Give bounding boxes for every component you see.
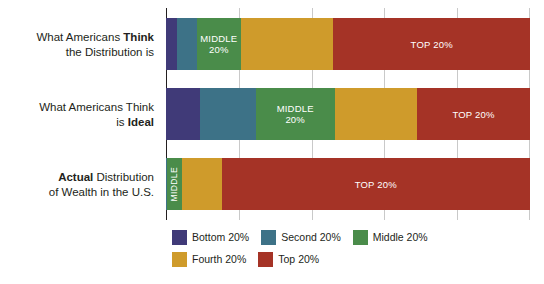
stacked-bars: MIDDLE 20%TOP 20% MIDDLE 20%TOP 20% MIDD… bbox=[166, 8, 530, 220]
legend-row-2: Fourth 20%Top 20% bbox=[172, 248, 532, 270]
legend-item[interactable]: Top 20% bbox=[258, 252, 319, 267]
legend: Bottom 20%Second 20%Middle 20% Fourth 20… bbox=[172, 226, 532, 270]
bar-segment-label: MIDDLE 20% bbox=[277, 103, 314, 125]
legend-item[interactable]: Bottom 20% bbox=[172, 230, 249, 245]
label-text: What Americans bbox=[36, 31, 123, 43]
legend-label: Fourth 20% bbox=[192, 253, 246, 265]
label-text: Distribution bbox=[93, 171, 154, 183]
legend-item[interactable]: Middle 20% bbox=[353, 230, 428, 245]
category-label-line2: the Distribution is bbox=[0, 45, 154, 60]
bar-segment bbox=[335, 88, 417, 140]
category-label-line1: Actual Distribution bbox=[0, 170, 154, 185]
label-emphasis: Think bbox=[123, 31, 154, 43]
bar-segment-label: MIDDLE 20% bbox=[200, 33, 237, 55]
label-text: What Americans Think bbox=[39, 101, 154, 113]
legend-swatch bbox=[258, 252, 273, 267]
category-label-group: What Americans Think the Distribution is… bbox=[0, 8, 160, 220]
legend-swatch bbox=[353, 230, 368, 245]
bar-row: MIDDLE 20%TOP 20% bbox=[166, 88, 530, 140]
category-label-line1: What Americans Think bbox=[0, 100, 154, 115]
label-text: of Wealth in the U.S. bbox=[49, 186, 154, 198]
bar-row: MIDDLETOP 20% bbox=[166, 158, 530, 210]
bar-segment: MIDDLE bbox=[167, 158, 182, 210]
plot-area: MIDDLE 20%TOP 20% MIDDLE 20%TOP 20% MIDD… bbox=[166, 8, 530, 220]
bar-segment bbox=[166, 88, 200, 140]
bar-segment: TOP 20% bbox=[333, 18, 530, 70]
bar-segment bbox=[166, 18, 177, 70]
legend-swatch bbox=[172, 230, 187, 245]
wealth-distribution-chart: What Americans Think the Distribution is… bbox=[0, 0, 544, 284]
bar-segment bbox=[241, 18, 334, 70]
legend-swatch bbox=[172, 252, 187, 267]
category-label-actual: Actual Distribution of Wealth in the U.S… bbox=[0, 170, 154, 200]
bar-segment: MIDDLE 20% bbox=[197, 18, 241, 70]
legend-label: Top 20% bbox=[278, 253, 319, 265]
legend-label: Bottom 20% bbox=[192, 231, 249, 243]
bar-segment bbox=[200, 88, 256, 140]
category-label-line1: What Americans Think bbox=[0, 30, 154, 45]
bar-segment-label: MIDDLE bbox=[169, 167, 180, 202]
label-text: the Distribution is bbox=[66, 46, 154, 58]
legend-label: Middle 20% bbox=[373, 231, 428, 243]
category-label-line2: is Ideal bbox=[0, 115, 154, 130]
label-emphasis: Actual bbox=[58, 171, 93, 183]
bar-segment: TOP 20% bbox=[222, 158, 530, 210]
legend-row-1: Bottom 20%Second 20%Middle 20% bbox=[172, 226, 532, 248]
legend-swatch bbox=[261, 230, 276, 245]
legend-item[interactable]: Fourth 20% bbox=[172, 252, 246, 267]
bar-row: MIDDLE 20%TOP 20% bbox=[166, 18, 530, 70]
label-text: is bbox=[116, 116, 128, 128]
bar-segment: TOP 20% bbox=[417, 88, 530, 140]
bar-segment-label: TOP 20% bbox=[355, 179, 397, 190]
label-emphasis: Ideal bbox=[128, 116, 154, 128]
category-label-think: What Americans Think the Distribution is bbox=[0, 30, 154, 60]
bar-segment bbox=[182, 158, 222, 210]
category-label-line2: of Wealth in the U.S. bbox=[0, 185, 154, 200]
category-label-ideal: What Americans Think is Ideal bbox=[0, 100, 154, 130]
bar-segment: MIDDLE 20% bbox=[256, 88, 335, 140]
legend-item[interactable]: Second 20% bbox=[261, 230, 341, 245]
bar-segment bbox=[177, 18, 197, 70]
legend-label: Second 20% bbox=[281, 231, 341, 243]
bar-segment-label: TOP 20% bbox=[411, 39, 453, 50]
bar-segment-label: TOP 20% bbox=[452, 109, 494, 120]
